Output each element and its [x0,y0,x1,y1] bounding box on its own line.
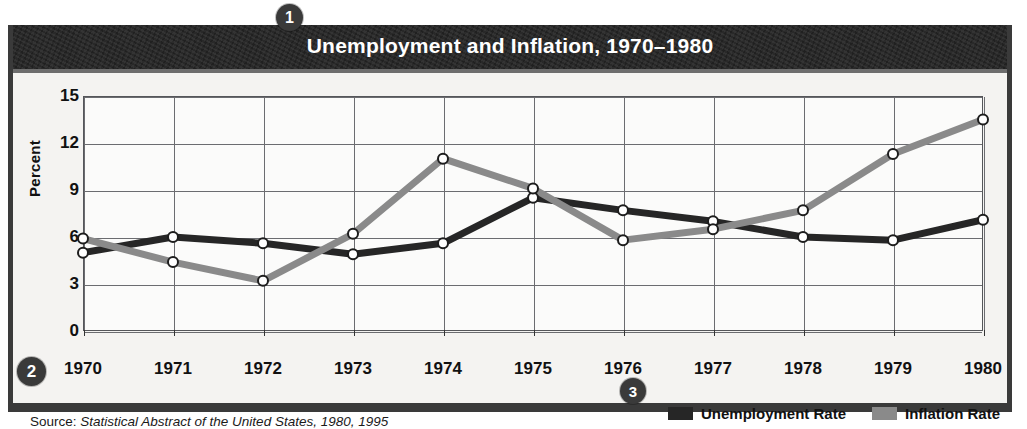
data-point-marker[interactable] [798,232,808,242]
legend-item-unemployment[interactable]: Unemployment Rate [668,405,846,422]
data-point-marker[interactable] [438,154,448,164]
legend-item-inflation[interactable]: Inflation Rate [872,405,1000,422]
y-axis-tick-labels: 03691215 [45,96,79,331]
source-label: Source: [30,414,77,429]
x-tick-label: 1980 [948,359,1018,379]
chart-title-bar: Unemployment and Inflation, 1970–1980 [13,25,1007,73]
y-axis-title: Percent [26,140,43,197]
data-point-marker[interactable] [168,257,178,267]
data-point-marker[interactable] [888,235,898,245]
y-tick-label: 12 [45,133,79,153]
legend-swatch-icon [668,407,693,420]
x-tick-label: 1973 [318,359,388,379]
data-point-marker[interactable] [528,183,538,193]
y-tick-label: 9 [45,180,79,200]
x-tick-label: 1975 [498,359,568,379]
data-point-marker[interactable] [348,229,358,239]
data-point-marker[interactable] [258,238,268,248]
y-tick-label: 15 [45,86,79,106]
page-title: Unemployment and Inflation, 1970–1980 [307,34,714,58]
x-tick-mark [984,330,985,336]
x-tick-label: 1978 [768,359,838,379]
legend-swatch-icon [872,407,897,420]
series-line [83,198,983,254]
legend-label: Inflation Rate [905,405,1000,422]
y-tick-label: 0 [45,321,79,341]
x-tick-label: 1979 [858,359,928,379]
data-point-marker[interactable] [168,232,178,242]
x-axis-tick-labels: 1970197119721973197419751976197719781979… [13,359,1017,385]
source-citation: Statistical Abstract of the United State… [80,414,388,429]
x-tick-label: 1972 [228,359,298,379]
data-point-marker[interactable] [258,276,268,286]
source-note: Source: Statistical Abstract of the Unit… [30,414,388,429]
y-tick-label: 6 [45,227,79,247]
x-tick-label: 1970 [48,359,118,379]
data-point-marker[interactable] [78,248,88,258]
x-tick-label: 1974 [408,359,478,379]
x-tick-label: 1971 [138,359,208,379]
gridline-horizontal [84,332,982,333]
gridline-vertical [984,97,985,330]
callout-badge-3[interactable]: 3 [620,378,646,404]
data-point-marker[interactable] [888,149,898,159]
plot-area [83,96,983,331]
callout-badge-1[interactable]: 1 [276,4,303,31]
data-point-marker[interactable] [618,205,628,215]
data-point-marker[interactable] [978,115,988,125]
legend-label: Unemployment Rate [701,405,846,422]
figure-container: Unemployment and Inflation, 1970–1980 03… [8,25,1012,412]
data-point-marker[interactable] [978,215,988,225]
data-point-marker[interactable] [708,224,718,234]
data-point-marker[interactable] [438,238,448,248]
chart-legend: Unemployment RateInflation Rate [668,405,1000,422]
data-point-marker[interactable] [618,235,628,245]
callout-badge-2[interactable]: 2 [17,357,46,386]
series-layer [83,96,983,331]
data-point-marker[interactable] [78,234,88,244]
y-tick-label: 3 [45,274,79,294]
x-tick-label: 1977 [678,359,748,379]
x-tick-label: 1976 [588,359,658,379]
data-point-marker[interactable] [798,205,808,215]
data-point-marker[interactable] [348,249,358,259]
